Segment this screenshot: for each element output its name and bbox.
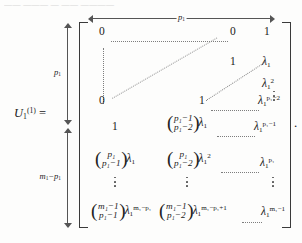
- binomial-coefficient: ( p₁ p₁−2 ): [168, 150, 199, 169]
- matrix-cell-r5c3-lambda: λ1p₁−1: [254, 120, 276, 134]
- row4-horizontal-dots: [211, 110, 259, 111]
- binomial-coefficient: ( m₁−1 p₁−1 ): [92, 202, 125, 221]
- col2-vertical-dots-2: [186, 174, 188, 189]
- lhs-superscript: (1): [27, 106, 36, 115]
- row6-horizontal-dots: [221, 172, 259, 173]
- row5-horizontal-dots: [217, 136, 255, 137]
- row-block-2-brace-label: m1−p1: [26, 170, 61, 182]
- column-count-brace-label: p1: [176, 12, 187, 22]
- matrix-cell-r4c2: 1: [199, 94, 205, 106]
- matrix-cell-r6c1-binomial: ( p₁ p₁−1 ) λ1: [96, 150, 135, 169]
- binomial-coefficient: ( p₁−1 p₁−2 ): [168, 114, 199, 133]
- matrix-cell-r7c1-binomial: ( m₁−1 p₁−1 ) λ1m₁−p₁: [92, 202, 151, 221]
- matrix-cell-r5c2-binomial: ( p₁−1 p₁−2 ) λ1: [168, 114, 207, 133]
- binom-bottom: p₁−1: [98, 211, 119, 220]
- col1-vertical-dots-2: [114, 174, 116, 189]
- row-block-1-brace: [62, 23, 73, 125]
- matrix-cell-r7c3-lambda: λ1m₁−1: [261, 205, 285, 219]
- matrix-cell-r5c1: 1: [112, 120, 118, 132]
- equation-figure: U1(1)= p1 m1−p1 p1 . 0 0 1 1 λ1 λ12: [0, 0, 302, 243]
- row7-horizontal-dots: [242, 222, 262, 223]
- lhs-matrix-label: U1(1)=: [14, 106, 46, 121]
- matrix-body: 0 0 1 1 λ1 λ12 0 1 λ1p₁−2 1 ( p₁−1: [86, 22, 282, 228]
- matrix-cell-r2c2: 1: [230, 55, 236, 67]
- lhs-symbol-U: U: [14, 106, 23, 120]
- binom-bottom: p₁−2: [174, 159, 193, 168]
- binom-bottom: p₁−2: [174, 123, 193, 132]
- matrix-cell-r6c2-binomial: ( p₁ p₁−2 ) λ12: [168, 150, 211, 169]
- binomial-coefficient: ( p₁ p₁−1 ): [96, 150, 127, 169]
- row-block-2-brace: [62, 128, 73, 228]
- matrix-cell-r4c3-lambda: λ1p₁−2: [258, 94, 280, 108]
- matrix-cell-r4c1: 0: [99, 94, 105, 106]
- binom-bottom: p₁−1: [102, 159, 121, 168]
- col3-vertical-dots-2: [272, 174, 274, 189]
- matrix-cell-r1c2: 0: [230, 25, 236, 37]
- equals-sign: =: [39, 106, 46, 120]
- diagonal-dots-upper: [112, 38, 217, 99]
- matrix-cell-r1c3: 1: [264, 25, 270, 37]
- diagonal-dots-lower: [206, 62, 265, 101]
- matrix-cell-r1c1: 0: [99, 25, 105, 37]
- matrix-right-bracket: [282, 22, 291, 228]
- row-block-1-brace-label: p1: [44, 66, 61, 78]
- trailing-period: .: [294, 115, 297, 131]
- matrix-cell-r6c3-lambda: λ1p₁: [260, 156, 275, 170]
- matrix-cell-r7c2-binomial: ( m₁−1 p₁−2 ) λ1m₁−p₁+1: [160, 202, 227, 221]
- binom-bottom: p₁−2: [166, 211, 187, 220]
- binomial-coefficient: ( m₁−1 p₁−2 ): [160, 202, 193, 221]
